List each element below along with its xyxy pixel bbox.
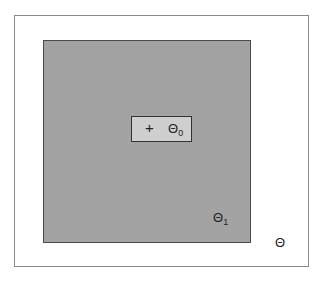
- label-theta-0-symbol: Θ: [168, 121, 178, 136]
- label-theta: Θ: [275, 235, 285, 251]
- point-marker-plus-icon: +: [145, 119, 154, 137]
- label-theta-0-subscript: 0: [178, 128, 183, 138]
- label-theta-1: Θ1: [213, 210, 228, 230]
- label-theta-1-symbol: Θ: [213, 210, 223, 225]
- label-theta-0: Θ0: [168, 121, 183, 141]
- label-theta-1-subscript: 1: [223, 217, 228, 227]
